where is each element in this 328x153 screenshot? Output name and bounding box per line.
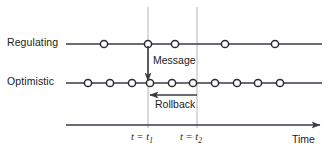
event-marker xyxy=(276,79,283,86)
row-label-regulating: Regulating xyxy=(7,36,58,48)
event-marker xyxy=(189,79,196,86)
optimistic-timeline xyxy=(66,79,322,86)
event-marker xyxy=(84,79,91,86)
event-marker xyxy=(106,79,113,86)
tick-label-t2-sub: 2 xyxy=(198,136,202,145)
event-marker xyxy=(221,40,228,47)
event-marker xyxy=(100,40,107,47)
tick-label-t1-text: t = t xyxy=(131,131,149,142)
event-marker xyxy=(171,40,178,47)
regulating-timeline xyxy=(66,40,322,47)
event-marker xyxy=(168,79,175,86)
event-marker xyxy=(128,79,135,86)
event-marker xyxy=(211,79,218,86)
time-axis-label: Time xyxy=(292,133,315,145)
tick-label-t1-sub: 1 xyxy=(149,136,153,145)
message-label: Message xyxy=(153,54,196,66)
rollback-label: Rollback xyxy=(155,98,195,110)
event-marker xyxy=(271,40,278,47)
row-label-optimistic: Optimistic xyxy=(7,75,54,87)
event-marker xyxy=(254,79,261,86)
tick-label-t1: t = t1 xyxy=(131,131,153,145)
tick-label-t2-text: t = t xyxy=(180,131,198,142)
timeline-diagram: Regulating Optimistic Message Rollback T… xyxy=(0,0,328,153)
event-marker xyxy=(233,79,240,86)
tick-label-t2: t = t2 xyxy=(180,131,202,145)
